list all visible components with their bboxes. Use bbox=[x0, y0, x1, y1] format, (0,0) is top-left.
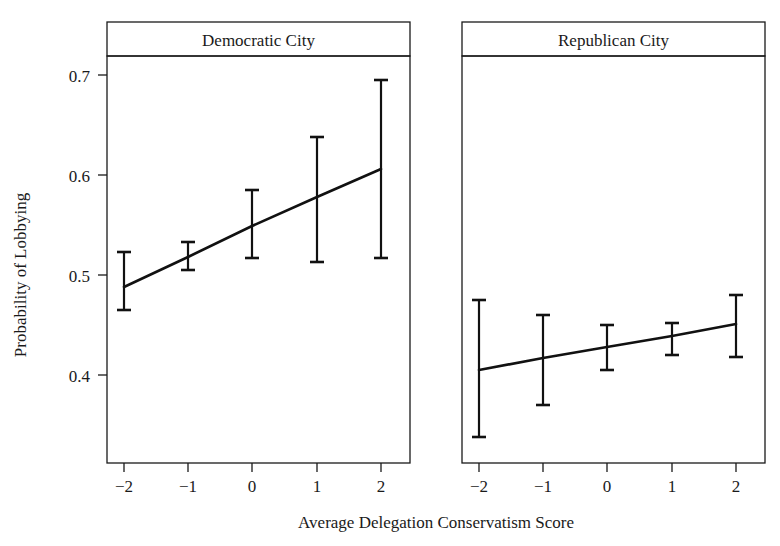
y-tick-label-2: 0.5 bbox=[69, 267, 90, 286]
x-axis-tick-marks-right bbox=[479, 463, 736, 472]
x-tick-label-3: 1 bbox=[313, 477, 322, 496]
y-axis-title-text: Probability of Lobbying bbox=[11, 192, 30, 357]
panel-frame-right bbox=[462, 56, 765, 463]
y-axis-tick-marks bbox=[98, 75, 107, 375]
chart-figure: Probability of Lobbying 0.7 0.6 0.5 0.4 … bbox=[0, 0, 780, 546]
panel-republican-city: Republican City bbox=[462, 22, 765, 496]
x-axis-tick-labels-left: −2 −1 0 1 2 bbox=[115, 477, 385, 496]
x-axis-tick-marks-left bbox=[124, 463, 381, 472]
x-tick-label-1: −1 bbox=[179, 477, 197, 496]
x-tick-label-0: −2 bbox=[115, 477, 133, 496]
error-bar-left-x-neg2 bbox=[117, 252, 131, 310]
lobbying-probability-chart: Probability of Lobbying 0.7 0.6 0.5 0.4 … bbox=[0, 0, 780, 546]
plot-left bbox=[117, 80, 388, 310]
plot-right bbox=[472, 295, 743, 437]
x-tick-label-2: 0 bbox=[248, 477, 257, 496]
error-bar-left-x-2 bbox=[374, 80, 388, 258]
panel-frame-left bbox=[107, 56, 410, 463]
x-tick-label-4: 2 bbox=[377, 477, 386, 496]
error-bar-right-x-1 bbox=[665, 323, 679, 355]
x-tick-label-1: −1 bbox=[534, 477, 552, 496]
y-tick-label-1: 0.6 bbox=[69, 167, 90, 186]
x-tick-label-3: 1 bbox=[668, 477, 677, 496]
x-tick-label-4: 2 bbox=[732, 477, 741, 496]
y-tick-label-0: 0.7 bbox=[69, 67, 91, 86]
panel-title-right: Republican City bbox=[558, 31, 669, 50]
y-tick-label-3: 0.4 bbox=[69, 367, 91, 386]
x-axis-title-text: Average Delegation Conservatism Score bbox=[298, 513, 574, 532]
y-axis-title: Probability of Lobbying bbox=[11, 192, 30, 357]
x-tick-label-2: 0 bbox=[603, 477, 612, 496]
x-axis-tick-labels-right: −2 −1 0 1 2 bbox=[470, 477, 740, 496]
x-tick-label-0: −2 bbox=[470, 477, 488, 496]
panel-title-left: Democratic City bbox=[202, 31, 315, 50]
panel-democratic-city: Democratic City bbox=[107, 22, 410, 496]
y-axis-tick-labels: 0.7 0.6 0.5 0.4 bbox=[69, 67, 91, 386]
